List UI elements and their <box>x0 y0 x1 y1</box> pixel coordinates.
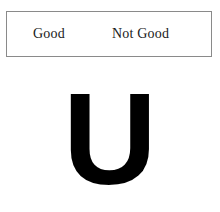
stimulus-display: U <box>0 74 220 194</box>
stimulus-letter-graphic: U <box>0 74 220 194</box>
choice-option-good[interactable]: Good <box>33 26 65 42</box>
stimulus-letter: U <box>63 74 157 194</box>
task-canvas: Good Not Good U <box>0 0 220 212</box>
choice-option-not-good[interactable]: Not Good <box>112 26 169 42</box>
choice-box: Good Not Good <box>6 11 212 57</box>
